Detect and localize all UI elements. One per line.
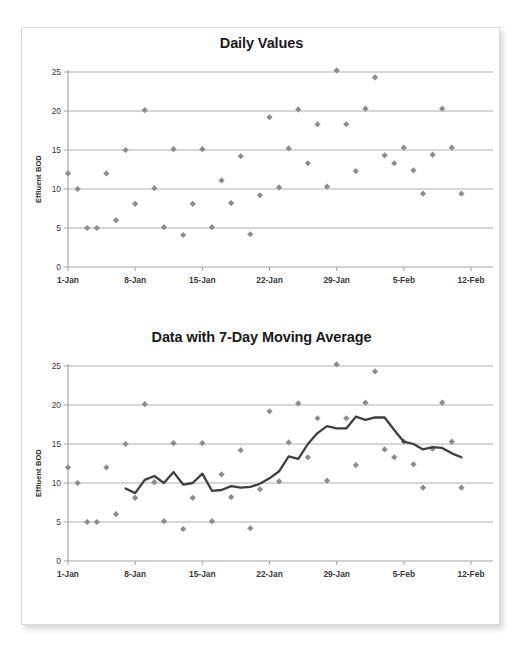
data-point — [228, 200, 234, 206]
x-tick-label: 22-Jan — [256, 569, 283, 579]
data-point — [199, 146, 205, 152]
chart2-plot-area: 05101520251-Jan8-Jan15-Jan22-Jan29-Jan5-… — [22, 325, 501, 624]
y-tick-label: 5 — [56, 517, 61, 527]
data-point — [334, 67, 340, 73]
data-point — [180, 526, 186, 532]
y-tick-label: 0 — [56, 556, 61, 566]
data-point — [314, 415, 320, 421]
data-point — [65, 170, 71, 176]
data-point — [334, 361, 340, 367]
data-point — [420, 485, 426, 491]
data-point — [161, 518, 167, 524]
x-tick-label: 29-Jan — [323, 275, 350, 285]
data-point — [305, 454, 311, 460]
y-tick-label: 10 — [52, 478, 62, 488]
y-tick-label: 10 — [52, 184, 62, 194]
data-point — [151, 479, 157, 485]
chart1-plot-area: 05101520251-Jan8-Jan15-Jan22-Jan29-Jan5-… — [22, 28, 501, 325]
data-point — [238, 447, 244, 453]
x-tick-label: 15-Jan — [189, 569, 216, 579]
data-point — [142, 107, 148, 113]
data-point — [132, 495, 138, 501]
data-point — [257, 192, 263, 198]
data-point — [170, 440, 176, 446]
data-point — [142, 401, 148, 407]
data-point — [353, 462, 359, 468]
data-point — [276, 478, 282, 484]
data-point — [228, 494, 234, 500]
data-point — [343, 415, 349, 421]
data-point — [266, 114, 272, 120]
moving-average-line — [126, 417, 462, 493]
x-tick-label: 29-Jan — [323, 569, 350, 579]
x-tick-label: 5-Feb — [393, 275, 415, 285]
data-point — [353, 168, 359, 174]
x-tick-label: 8-Jan — [124, 569, 146, 579]
data-point — [391, 454, 397, 460]
data-point — [410, 167, 416, 173]
scatter-series — [65, 67, 465, 238]
data-point — [286, 439, 292, 445]
data-point — [84, 225, 90, 231]
data-point — [295, 400, 301, 406]
data-point — [132, 201, 138, 207]
y-tick-label: 0 — [56, 262, 61, 272]
y-tick-label: 25 — [52, 67, 62, 77]
scatter-series — [65, 361, 465, 532]
chart-sheet: Daily Values Effluent BOD 05101520251-Ja… — [21, 27, 500, 625]
y-tick-label: 15 — [52, 439, 62, 449]
x-tick-label: 1-Jan — [57, 569, 79, 579]
data-point — [190, 201, 196, 207]
data-point — [305, 160, 311, 166]
data-point — [209, 518, 215, 524]
data-point — [122, 441, 128, 447]
data-point — [190, 495, 196, 501]
data-point — [257, 486, 263, 492]
data-point — [266, 408, 272, 414]
data-point — [103, 170, 109, 176]
data-point — [218, 177, 224, 183]
data-point — [286, 145, 292, 151]
data-point — [430, 152, 436, 158]
data-point — [84, 519, 90, 525]
data-point — [343, 121, 349, 127]
data-point — [247, 231, 253, 237]
data-point — [238, 153, 244, 159]
y-tick-label: 20 — [52, 106, 62, 116]
data-point — [65, 464, 71, 470]
data-point — [180, 232, 186, 238]
data-point — [122, 147, 128, 153]
data-point — [151, 185, 157, 191]
data-point — [420, 191, 426, 197]
data-point — [314, 121, 320, 127]
x-tick-label: 1-Jan — [57, 275, 79, 285]
data-point — [209, 224, 215, 230]
x-tick-label: 12-Feb — [458, 275, 485, 285]
x-tick-label: 22-Jan — [256, 275, 283, 285]
data-point — [391, 160, 397, 166]
x-tick-label: 12-Feb — [458, 569, 485, 579]
y-tick-label: 5 — [56, 223, 61, 233]
data-point — [94, 519, 100, 525]
data-point — [382, 152, 388, 158]
data-point — [170, 146, 176, 152]
chart-moving-average: Data with 7-Day Moving Average Effluent … — [22, 325, 501, 624]
data-point — [458, 191, 464, 197]
data-point — [458, 485, 464, 491]
data-point — [74, 186, 80, 192]
x-tick-label: 5-Feb — [393, 569, 415, 579]
data-point — [382, 446, 388, 452]
data-point — [276, 184, 282, 190]
y-tick-label: 15 — [52, 145, 62, 155]
x-tick-label: 15-Jan — [189, 275, 216, 285]
data-point — [94, 225, 100, 231]
data-point — [410, 461, 416, 467]
data-point — [113, 217, 119, 223]
data-point — [372, 74, 378, 80]
chart-daily-values: Daily Values Effluent BOD 05101520251-Ja… — [22, 28, 501, 325]
data-point — [74, 480, 80, 486]
data-point — [247, 525, 253, 531]
y-tick-label: 20 — [52, 400, 62, 410]
data-point — [113, 511, 119, 517]
y-tick-label: 25 — [52, 361, 62, 371]
